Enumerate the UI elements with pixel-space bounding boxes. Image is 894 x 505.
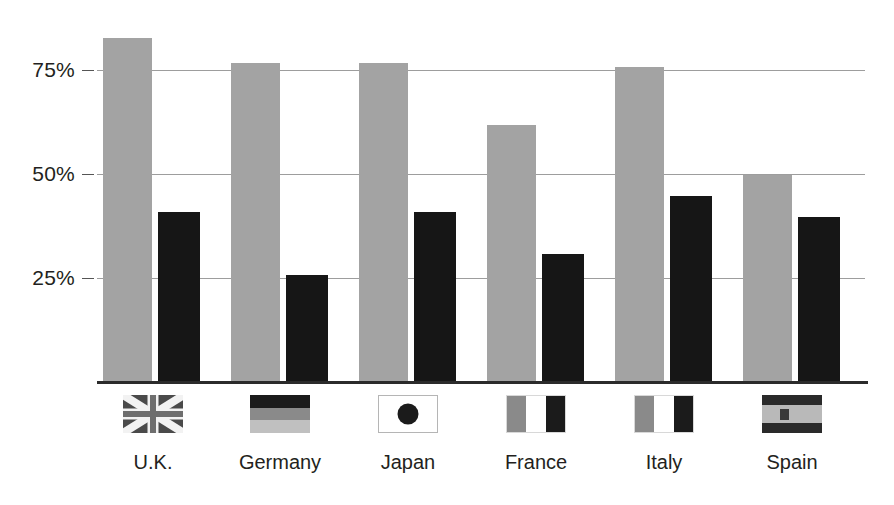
bar-spain-light (743, 175, 792, 383)
bar-japan-light (359, 63, 408, 383)
bar-italy-dark (670, 196, 712, 383)
bar-japan-dark (414, 212, 456, 383)
bar-italy-light (615, 67, 664, 383)
bar-germany-dark (286, 275, 328, 383)
bar-chart: 75% 50% 25% (0, 0, 894, 505)
bar-spain-dark (798, 217, 840, 383)
country-label-spain: Spain (728, 451, 856, 474)
country-label-italy: Italy (600, 451, 728, 474)
y-tick-label-50: 50% (32, 162, 75, 186)
country-label-germany: Germany (216, 451, 344, 474)
y-tick-label-75: 75% (32, 58, 75, 82)
bar-france-light (487, 125, 536, 383)
y-tick-mark-25 (82, 278, 94, 279)
country-label-japan: Japan (344, 451, 472, 474)
y-axis: 75% 50% 25% (0, 0, 97, 400)
legend-item-italy: Italy (600, 395, 728, 474)
flag-spain-icon (762, 395, 822, 433)
x-axis-baseline (97, 381, 868, 384)
y-tick-label-25: 25% (32, 266, 75, 290)
legend-item-spain: Spain (728, 395, 856, 474)
legend: U.K. Germany Japan France Italy (97, 395, 865, 505)
flag-italy-icon (634, 395, 694, 433)
legend-item-uk: U.K. (89, 395, 217, 474)
country-label-uk: U.K. (89, 451, 217, 474)
y-tick-mark-75 (82, 70, 94, 71)
flag-japan-icon (378, 395, 438, 433)
plot-area (97, 18, 865, 383)
bar-germany-light (231, 63, 280, 383)
legend-item-germany: Germany (216, 395, 344, 474)
legend-item-japan: Japan (344, 395, 472, 474)
flag-france-icon (506, 395, 566, 433)
gridline-75 (97, 70, 865, 71)
flag-germany-icon (250, 395, 310, 433)
country-label-france: France (472, 451, 600, 474)
bar-france-dark (542, 254, 584, 383)
bar-uk-dark (158, 212, 200, 383)
y-tick-mark-50 (82, 174, 94, 175)
legend-item-france: France (472, 395, 600, 474)
bar-uk-light (103, 38, 152, 383)
flag-united-kingdom-icon (123, 395, 183, 433)
